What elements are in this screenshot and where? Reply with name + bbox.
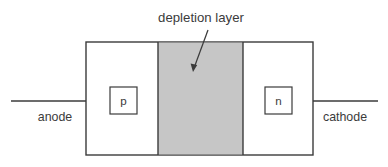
depletion-layer-region [158,43,243,155]
n-region-label: n [275,94,281,107]
cathode-label: cathode [323,110,367,124]
depletion-layer-title: depletion layer [158,10,244,25]
pn-junction-diagram: depletion layer anode cathode p n [0,0,388,167]
p-region-label: p [120,94,126,107]
pn-junction-canvas: depletion layer anode cathode p n [0,0,388,167]
anode-label: anode [38,110,73,124]
